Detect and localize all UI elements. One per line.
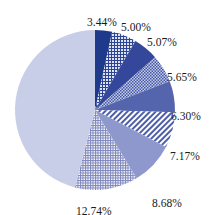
- pie-chart: 3.44%5.00%5.07%5.65%6.30%7.17%8.68%12.74…: [0, 0, 218, 215]
- slice-label: 5.07%: [147, 36, 177, 48]
- slice-label: 12.74%: [76, 205, 112, 215]
- slice-label: 6.30%: [171, 110, 201, 122]
- slice-label: 5.65%: [167, 71, 197, 83]
- pie-slices: [15, 30, 175, 190]
- slice-label: 8.68%: [152, 197, 182, 209]
- slice-label: 5.00%: [121, 21, 151, 33]
- slice-label: 7.17%: [170, 150, 200, 162]
- slice-label: 3.44%: [87, 16, 117, 28]
